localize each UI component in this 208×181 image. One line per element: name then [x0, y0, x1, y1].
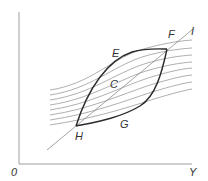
diagram-canvas: E F I C G H 0 Y: [0, 0, 208, 181]
label-e: E: [112, 48, 119, 59]
label-c: C: [110, 79, 118, 90]
curve-family: [50, 40, 192, 125]
curve-4: [50, 62, 192, 105]
label-f: F: [168, 29, 175, 40]
label-i: I: [191, 26, 194, 37]
label-h: H: [75, 131, 83, 142]
origin-label: 0: [11, 167, 17, 178]
diagram-svg: [0, 0, 208, 181]
line-i: [47, 29, 193, 150]
x-axis-label: Y: [189, 167, 196, 178]
curve-3: [50, 55, 192, 100]
label-g: G: [120, 119, 129, 130]
